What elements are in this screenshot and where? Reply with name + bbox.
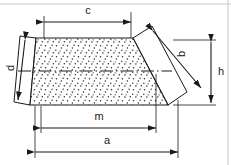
dimension-label-m: m bbox=[94, 110, 103, 122]
diagram-canvas: c m a h d b bbox=[0, 0, 231, 165]
dimension-label-a: a bbox=[104, 134, 111, 146]
dimension-label-h: h bbox=[218, 65, 224, 77]
dimension-label-c: c bbox=[85, 4, 91, 16]
dimension-label-b: b bbox=[175, 51, 187, 57]
dimension-drawing: c m a h d b bbox=[0, 0, 231, 165]
dimension-label-d: d bbox=[4, 65, 16, 71]
